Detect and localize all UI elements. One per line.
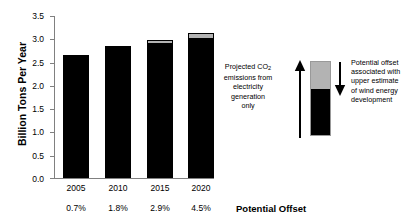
y-tick-label-3-5: 3.5 <box>32 12 44 21</box>
bar-segment-offset <box>147 40 173 44</box>
y-tick-mark <box>50 16 55 17</box>
x-label-2005: 2005 <box>67 183 86 193</box>
y-tick-mark <box>50 63 55 64</box>
y-axis-tick-labels: 3.5 3.0 2.5 2.0 1.5 1.0 0.5 0.0 <box>0 16 52 179</box>
annotation-offset-line4: of wind energy <box>351 86 398 95</box>
y-tick-label-1-0: 1.0 <box>32 128 44 137</box>
annotation-emissions-subscript: 2 <box>268 65 271 71</box>
y-tick-label-3-0: 3.0 <box>32 35 44 44</box>
legend-segment-offset <box>311 62 330 89</box>
annotation-emissions-line1: Projected CO <box>225 62 268 71</box>
legend-segment-emissions <box>311 89 330 135</box>
y-tick-mark <box>50 156 55 157</box>
bar-segment-emissions <box>147 44 173 178</box>
x-label-2010: 2010 <box>109 183 128 193</box>
x-axis-title: Potential Offset <box>236 203 306 214</box>
pct-label-2010: 1.8% <box>108 203 127 213</box>
pct-label-2020: 4.5% <box>191 203 210 213</box>
annotation-offset-line5: development <box>351 95 392 104</box>
y-axis-line <box>54 16 55 179</box>
y-tick-mark <box>50 132 55 133</box>
arrow-up-icon <box>294 60 306 138</box>
bar-segment-offset <box>188 33 214 39</box>
annotation-emissions-line3: electricity <box>233 82 263 91</box>
annotation-offset-line1: Potential offset <box>351 58 398 67</box>
y-tick-mark <box>50 86 55 87</box>
bar-2010[interactable] <box>105 46 131 178</box>
bar-segment-offset <box>63 55 89 57</box>
chart-canvas: Billion Tons Per Year 3.5 3.0 2.5 2.0 1.… <box>0 0 402 223</box>
y-tick-mark <box>50 178 55 179</box>
y-tick-label-0-5: 0.5 <box>32 151 44 160</box>
pct-label-2005: 0.7% <box>66 203 85 213</box>
plot-area <box>54 16 214 179</box>
x-axis-category-labels: 2005 2010 2015 2020 <box>54 183 214 195</box>
bar-segment-emissions <box>63 57 89 178</box>
annotation-offset-line2: associated with <box>351 67 400 76</box>
y-tick-label-2-0: 2.0 <box>32 82 44 91</box>
x-axis-line <box>54 178 214 179</box>
annotation-offset-line3: upper estimate <box>351 76 399 85</box>
x-label-2020: 2020 <box>192 183 211 193</box>
arrow-down-icon <box>334 62 346 96</box>
annotation-emissions-line5: only <box>241 101 254 110</box>
pct-label-2015: 2.9% <box>150 203 169 213</box>
y-tick-mark <box>50 39 55 40</box>
annotation-offset: Potential offset associated with upper e… <box>351 58 401 104</box>
x-label-2015: 2015 <box>151 183 170 193</box>
y-tick-label-1-5: 1.5 <box>32 105 44 114</box>
annotation-emissions-line2: emissions from <box>224 73 272 82</box>
annotation-emissions: Projected CO2 emissions from electricity… <box>205 62 291 110</box>
y-tick-label-0-0: 0.0 <box>32 175 44 184</box>
bar-2015[interactable] <box>147 40 173 178</box>
annotation-emissions-line4: generation <box>231 92 265 101</box>
x-axis-percentage-labels: 0.7% 1.8% 2.9% 4.5% <box>54 203 214 215</box>
y-tick-mark <box>50 109 55 110</box>
legend-stacked-bar <box>310 61 331 136</box>
bar-segment-emissions <box>105 48 131 178</box>
y-tick-label-2-5: 2.5 <box>32 58 44 67</box>
bar-2005[interactable] <box>63 55 89 178</box>
bar-segment-offset <box>105 46 131 48</box>
